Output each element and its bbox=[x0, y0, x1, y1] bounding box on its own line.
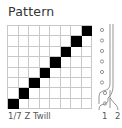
weave-caption: 1/7 Z Twill bbox=[8, 111, 51, 121]
grid-cell[interactable] bbox=[71, 88, 82, 98]
grid-cell[interactable] bbox=[82, 68, 93, 78]
grid-cell[interactable] bbox=[40, 57, 51, 67]
grid-cell-filled[interactable] bbox=[61, 47, 72, 57]
grid-cell[interactable] bbox=[19, 47, 30, 57]
grid-cell[interactable] bbox=[19, 36, 30, 46]
grid-cell[interactable] bbox=[19, 78, 30, 88]
shaft-label-1: 1 bbox=[102, 111, 107, 121]
grid-cell[interactable] bbox=[71, 68, 82, 78]
grid-cell[interactable] bbox=[40, 47, 51, 57]
grid-cell[interactable] bbox=[8, 68, 19, 78]
grid-cell-filled[interactable] bbox=[19, 88, 30, 98]
grid-cell-filled[interactable] bbox=[40, 68, 51, 78]
grid-cell[interactable] bbox=[82, 78, 93, 88]
grid-cell[interactable] bbox=[82, 57, 93, 67]
shaft-label-2: 2 bbox=[115, 111, 120, 121]
grid-cell[interactable] bbox=[61, 99, 72, 109]
grid-cell[interactable] bbox=[50, 99, 61, 109]
grid-cell[interactable] bbox=[61, 68, 72, 78]
pattern-grid[interactable] bbox=[7, 25, 92, 109]
grid-cell[interactable] bbox=[40, 26, 51, 36]
grid-cell[interactable] bbox=[50, 88, 61, 98]
grid-cell[interactable] bbox=[8, 47, 19, 57]
grid-cell[interactable] bbox=[29, 36, 40, 46]
grid-cell[interactable] bbox=[50, 26, 61, 36]
grid-cell[interactable] bbox=[61, 57, 72, 67]
grid-cell[interactable] bbox=[50, 36, 61, 46]
pattern-title: Pattern bbox=[8, 4, 54, 19]
grid-cell[interactable] bbox=[19, 68, 30, 78]
grid-cell-filled[interactable] bbox=[82, 26, 93, 36]
grid-cell[interactable] bbox=[29, 47, 40, 57]
grid-cell[interactable] bbox=[61, 78, 72, 88]
grid-cell[interactable] bbox=[40, 36, 51, 46]
grid-cell[interactable] bbox=[29, 68, 40, 78]
grid-cell[interactable] bbox=[71, 99, 82, 109]
grid-cell-filled[interactable] bbox=[50, 57, 61, 67]
grid-cell[interactable] bbox=[29, 26, 40, 36]
grid-cell[interactable] bbox=[71, 57, 82, 67]
grid-cell[interactable] bbox=[8, 57, 19, 67]
grid-cell[interactable] bbox=[82, 99, 93, 109]
grid-cell[interactable] bbox=[8, 88, 19, 98]
grid-cell[interactable] bbox=[40, 88, 51, 98]
grid-cell-filled[interactable] bbox=[29, 78, 40, 88]
grid-cell[interactable] bbox=[8, 78, 19, 88]
grid-cell[interactable] bbox=[50, 47, 61, 57]
threading-diagram: 1 2 bbox=[98, 24, 122, 128]
grid-cell[interactable] bbox=[8, 26, 19, 36]
grid-cell[interactable] bbox=[40, 99, 51, 109]
grid-cell[interactable] bbox=[61, 88, 72, 98]
grid-cell-filled[interactable] bbox=[8, 99, 19, 109]
grid-cell[interactable] bbox=[29, 88, 40, 98]
grid-cell[interactable] bbox=[19, 99, 30, 109]
grid-cell[interactable] bbox=[82, 88, 93, 98]
grid-cell[interactable] bbox=[71, 78, 82, 88]
grid-cell[interactable] bbox=[82, 47, 93, 57]
grid-cell[interactable] bbox=[40, 78, 51, 88]
grid-cell[interactable] bbox=[61, 36, 72, 46]
grid-cell-filled[interactable] bbox=[71, 36, 82, 46]
grid-cell[interactable] bbox=[19, 57, 30, 67]
grid-cell[interactable] bbox=[29, 99, 40, 109]
grid-cell[interactable] bbox=[8, 36, 19, 46]
grid-cell[interactable] bbox=[82, 36, 93, 46]
grid-cell[interactable] bbox=[29, 57, 40, 67]
grid-cell[interactable] bbox=[71, 26, 82, 36]
grid-cell[interactable] bbox=[61, 26, 72, 36]
grid-cell[interactable] bbox=[71, 47, 82, 57]
grid-cell[interactable] bbox=[50, 78, 61, 88]
grid-cell[interactable] bbox=[50, 68, 61, 78]
grid-cell[interactable] bbox=[19, 26, 30, 36]
